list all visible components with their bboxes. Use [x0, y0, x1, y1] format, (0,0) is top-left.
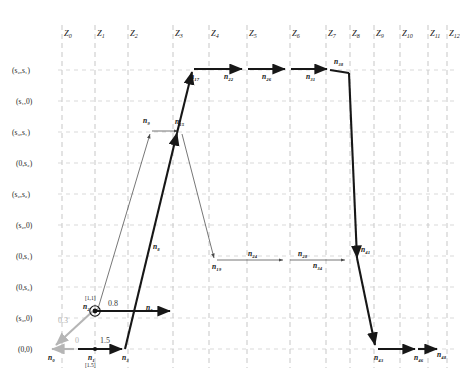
row-label-1: (s₁,0): [16, 97, 33, 106]
node-label-n34: n₃₄: [313, 261, 323, 270]
node-label-n41: n₄₁: [361, 245, 370, 254]
column-label-z12: Z12: [449, 28, 460, 39]
node-label-n22: n₂₂: [224, 72, 234, 81]
node-label-n38: n₃₈: [334, 57, 344, 66]
row-label-6: (0,s₁): [16, 252, 33, 261]
node-labels: n₀ n₁ [1.5] n₂ [1,1] n₃ n₅ n₈ n₉ n₁₅ n₁₇…: [48, 57, 447, 368]
row-label-4: (s₂,s₂): [12, 190, 30, 199]
row-label-3: (0,s₂): [16, 159, 33, 168]
weight-label-0: 0: [75, 336, 79, 345]
node-label-n26: n₂₆: [262, 72, 272, 81]
vertical-grid-lines: [62, 25, 447, 368]
row-label-5: (s₂,0): [16, 221, 33, 230]
row-label-8: (s₃,0): [16, 314, 33, 323]
node-bracket-n1: [1.5]: [85, 362, 96, 368]
node-label-n0: n₀: [48, 353, 55, 362]
node-bracket-n2: [1,1]: [85, 295, 96, 301]
column-label-z4: Z4: [211, 28, 219, 39]
row-labels: (s₂,s₁) (s₁,0) (s₃,s₁) (0,s₂) (s₂,s₂) (s…: [12, 66, 33, 354]
column-label-z1: Z1: [97, 28, 105, 39]
node-label-n46: n₄₆: [414, 353, 424, 362]
row-label-7: (0,s₃): [16, 283, 33, 292]
column-label-z3: Z3: [175, 28, 183, 39]
diagram-canvas: Z0 Z1 Z2 Z3 Z4 Z5 Z6 Z7 Z8 Z9 Z10 Z11 Z1…: [0, 0, 460, 384]
node-label-n24: n₂₄: [248, 249, 258, 258]
node-dot-n2: [93, 309, 98, 314]
node-label-n15: n₁₅: [175, 117, 185, 126]
node-label-n8: n₈: [153, 242, 160, 251]
node-label-n9: n₉: [143, 116, 150, 125]
bold-path-edges: [78, 69, 437, 349]
node-label-n19: n₁₉: [212, 262, 222, 271]
node-label-n17: n₁₇: [190, 72, 200, 81]
row-label-2: (s₃,s₁): [12, 128, 30, 137]
node-label-n48: n₄₈: [437, 350, 447, 359]
trellis-diagram: Z0 Z1 Z2 Z3 Z4 Z5 Z6 Z7 Z8 Z9 Z10 Z11 Z1…: [0, 0, 460, 384]
thin-edges: [97, 131, 345, 312]
node-label-n28: n₂₈: [298, 249, 308, 258]
row-label-9: (0,0): [18, 345, 33, 354]
weight-label-1-5: 1.5: [100, 336, 110, 345]
node-dot-n1: [93, 347, 97, 351]
column-label-z5: Z5: [249, 28, 257, 39]
weight-label-0-3: 0.3: [58, 316, 68, 325]
column-label-z11: Z11: [430, 28, 440, 39]
column-label-z10: Z10: [402, 28, 413, 39]
column-label-z8: Z8: [352, 28, 360, 39]
node-label-n1: n₁: [88, 353, 95, 362]
weight-label-0-8: 0.8: [108, 299, 118, 308]
column-label-z0: Z0: [64, 28, 72, 39]
node-label-n2: n₂: [83, 302, 90, 311]
node-label-n43: n₄₃: [374, 353, 384, 362]
row-label-0: (s₂,s₁): [12, 66, 30, 75]
column-label-z9: Z9: [376, 28, 384, 39]
column-label-z2: Z2: [130, 28, 138, 39]
node-label-n31: n₃₁: [306, 72, 315, 81]
node-label-n3: n₃: [122, 353, 129, 362]
node-label-n5: n₅: [146, 303, 153, 312]
column-label-z7: Z7: [328, 28, 337, 39]
horizontal-grid-lines: [58, 70, 458, 349]
column-label-z6: Z6: [292, 28, 300, 39]
